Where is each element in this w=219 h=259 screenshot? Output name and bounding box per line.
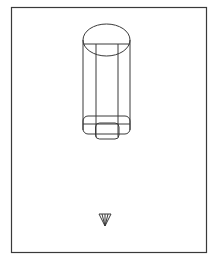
- diagram-canvas: [0, 0, 219, 259]
- section-marker-icon: [99, 214, 111, 226]
- top-ellipse: [83, 24, 130, 56]
- cylinder-drawing: [83, 24, 130, 139]
- base-outer: [83, 116, 130, 134]
- base-inner: [96, 123, 120, 139]
